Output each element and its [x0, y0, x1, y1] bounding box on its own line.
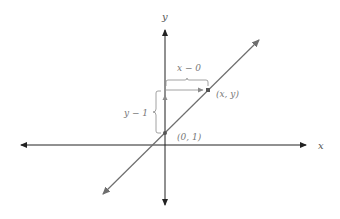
y-axis-label: y [161, 11, 168, 22]
run-brace [166, 78, 208, 86]
rise-brace [153, 91, 161, 133]
run-label: x − 0 [177, 63, 201, 73]
point-x-y [206, 88, 210, 92]
point-0-1 [163, 131, 167, 135]
rise-label: y − 1 [123, 108, 148, 118]
coordinate-plane-diagram: x y x − 0 y − 1 (0, 1) (x, y) [0, 0, 340, 219]
x-axis-label: x [318, 140, 324, 151]
point-0-1-label: (0, 1) [177, 132, 202, 142]
point-x-y-label: (x, y) [216, 89, 239, 99]
